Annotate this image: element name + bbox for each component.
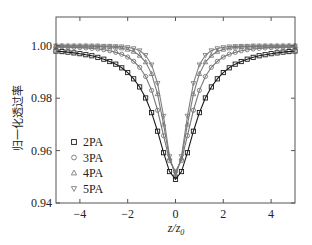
y-tick-label: 1.00 (31, 39, 52, 53)
x-axis-label: z/z0 (167, 221, 185, 237)
legend-marker-square-icon (72, 140, 77, 145)
legend-marker-triangle-down-icon (71, 187, 76, 192)
legend-label: 3PA (83, 151, 104, 165)
x-tick-label: 0 (173, 207, 179, 221)
legend-item-4pa: 4PA (71, 166, 103, 180)
legend-item-3pa: 3PA (72, 151, 104, 165)
x-axis-label-main: z/z (167, 221, 181, 235)
x-axis-label-subscript: 0 (180, 228, 184, 237)
legend-marker-circle-icon (72, 155, 77, 160)
z-scan-line-chart: −4−20240.940.960.981.00 2PA3PA4PA5PA 归一化… (0, 0, 312, 245)
y-axis-label: 归一化透过率 (11, 85, 25, 151)
legend: 2PA3PA4PA5PA (71, 135, 103, 196)
y-tick-label: 0.94 (31, 196, 52, 210)
x-tick-label: −2 (121, 207, 134, 221)
legend-label: 5PA (83, 182, 104, 196)
legend-item-2pa: 2PA (72, 135, 104, 149)
legend-label: 2PA (83, 135, 104, 149)
chart-container: −4−20240.940.960.981.00 2PA3PA4PA5PA 归一化… (0, 0, 312, 245)
x-tick-label: 4 (268, 207, 274, 221)
legend-marker-triangle-up-icon (71, 170, 76, 175)
legend-item-5pa: 5PA (71, 182, 103, 196)
y-tick-label: 0.96 (31, 144, 52, 158)
x-tick-label: −4 (74, 207, 87, 221)
legend-label: 4PA (83, 166, 104, 180)
y-tick-label: 0.98 (31, 91, 52, 105)
x-tick-label: 2 (220, 207, 226, 221)
